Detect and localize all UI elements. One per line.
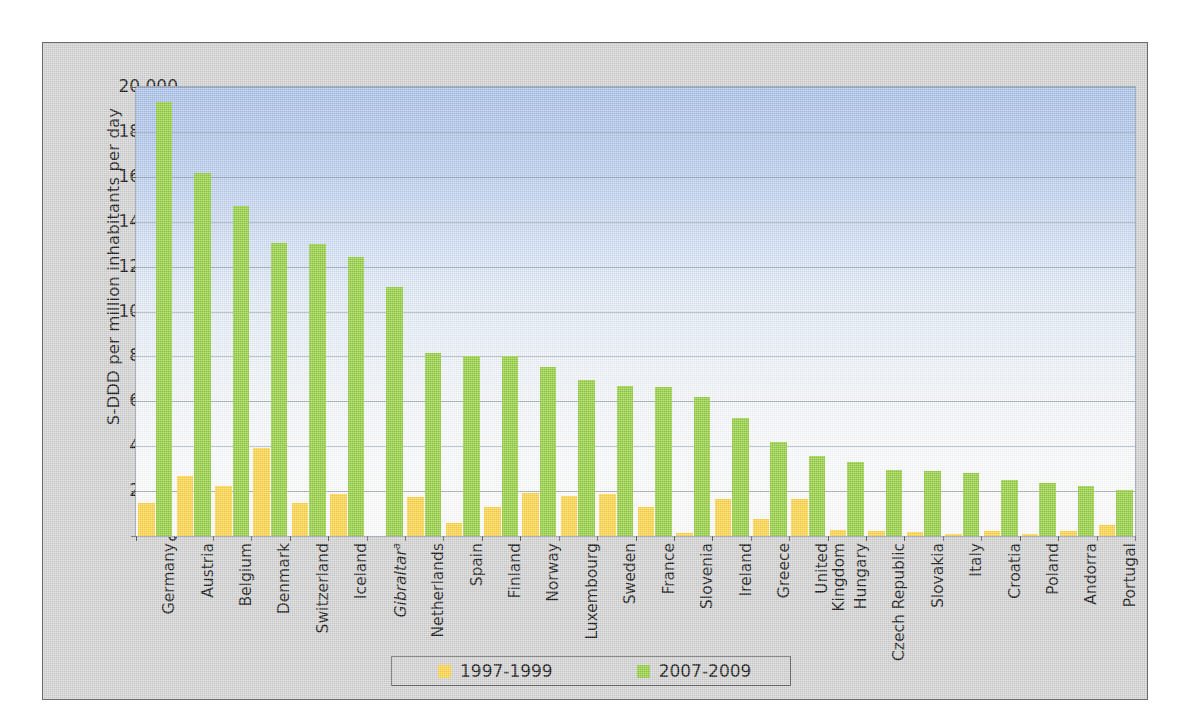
bar-group: [559, 87, 597, 536]
bar: [847, 462, 864, 536]
bar: [540, 367, 557, 536]
bar: [599, 494, 616, 536]
bar-group: [251, 87, 289, 536]
bar: [770, 442, 787, 536]
x-axis-tick-label: Sweden: [621, 543, 639, 604]
bar: [907, 532, 924, 536]
x-axis-tick-label: Austria: [199, 543, 217, 598]
bar: [694, 397, 711, 536]
bar: [886, 470, 903, 536]
bar-group: [1058, 87, 1096, 536]
bar: [963, 473, 980, 536]
legend-label: 2007-2009: [659, 661, 752, 681]
x-axis-tick-label: Italy: [967, 543, 985, 577]
bar: [330, 494, 347, 536]
bar: [271, 243, 288, 536]
bar: [1001, 480, 1018, 536]
x-axis-tick-label: Ireland: [737, 543, 755, 597]
x-axis-tick-label: Switzerland: [314, 543, 332, 633]
bar: [425, 353, 442, 536]
bar-group: [328, 87, 366, 536]
bar: [753, 519, 770, 536]
legend-label: 1997-1999: [460, 661, 553, 681]
x-axis-tick-label: Greece: [775, 543, 793, 598]
x-axis-tick-label: Kingdom: [830, 543, 848, 612]
bar: [253, 448, 270, 536]
x-axis-tick-label: Norway: [544, 543, 562, 602]
x-axis-tick-label: Finland: [506, 543, 524, 598]
bar: [924, 471, 941, 536]
bar: [830, 530, 847, 536]
bar: [522, 493, 539, 536]
bar-group: [828, 87, 866, 536]
bar: [233, 206, 250, 536]
bar-group: [520, 87, 558, 536]
x-axis-tick-label: Gibraltara: [391, 543, 410, 617]
chart-legend: 1997-19992007-2009: [391, 656, 791, 686]
x-axis-tick-mark: [1135, 536, 1136, 541]
bar: [502, 356, 519, 536]
bar: [561, 496, 578, 536]
bar-group: [943, 87, 981, 536]
bar: [732, 418, 749, 536]
bar-group: [290, 87, 328, 536]
bar: [386, 287, 403, 536]
bar-group: [904, 87, 942, 536]
x-axis-tick-label: Denmark: [275, 543, 293, 614]
bar-group: [597, 87, 635, 536]
bar-group: [136, 87, 174, 536]
bar: [617, 386, 634, 536]
bar: [138, 503, 155, 536]
bar-series-container: [136, 87, 1135, 536]
bar: [309, 244, 326, 536]
bar-group: [1097, 87, 1135, 536]
bar: [715, 499, 732, 536]
x-axis-tick-label: Spain: [468, 543, 486, 586]
bar: [578, 380, 595, 536]
bar: [1060, 531, 1077, 536]
legend-swatch-icon: [637, 665, 650, 678]
x-axis-tick-label: Belgium: [237, 543, 255, 607]
chart-frame: S-DDD per million inhabitants per day 02…: [42, 42, 1148, 700]
x-axis-tick-label: Luxembourg: [583, 543, 601, 640]
bar: [984, 531, 1001, 536]
x-axis-tick-label: Iceland: [352, 543, 370, 599]
bar-group: [405, 87, 443, 536]
bar: [1099, 525, 1116, 536]
bar: [292, 503, 309, 536]
bar-group: [789, 87, 827, 536]
x-axis-tick-label: Andorra: [1082, 543, 1100, 605]
bar-group: [443, 87, 481, 536]
x-axis-tick-label: United: [813, 543, 831, 594]
bar: [446, 523, 463, 536]
x-axis-tick-label: Croatia: [1006, 543, 1024, 599]
legend-item: 2007-2009: [637, 661, 752, 681]
bar-group: [712, 87, 750, 536]
bar: [1078, 486, 1095, 536]
bar: [215, 486, 232, 537]
bar-group: [174, 87, 212, 536]
bar: [945, 534, 962, 536]
bar-group: [213, 87, 251, 536]
x-axis-tick-label: Slovenia: [698, 543, 716, 609]
bar-group: [1020, 87, 1058, 536]
bar: [156, 102, 173, 536]
bar: [655, 387, 672, 536]
x-axis-tick-label: France: [660, 543, 678, 595]
bar-group: [636, 87, 674, 536]
legend-item: 1997-1999: [438, 661, 553, 681]
x-axis-tick-label: Germany: [160, 543, 178, 614]
bar: [1116, 490, 1133, 536]
plot-area: [135, 86, 1136, 537]
x-axis-tick-label: Portugal: [1121, 543, 1139, 607]
bar: [1022, 534, 1039, 536]
bar: [484, 507, 501, 536]
x-axis-tick-label: Hungary: [852, 543, 870, 609]
x-axis-tick-label: Slovakia: [929, 543, 947, 608]
bar-group: [367, 87, 405, 536]
bar: [676, 533, 693, 536]
bar-group: [482, 87, 520, 536]
x-axis-tick-label: Czech Republic: [890, 543, 908, 661]
bar-group: [981, 87, 1019, 536]
x-axis-tick-label: Poland: [1044, 543, 1062, 595]
